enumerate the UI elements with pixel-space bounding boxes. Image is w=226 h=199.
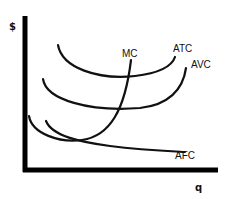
afc-curve: [46, 121, 185, 152]
afc-label: AFC: [175, 150, 195, 161]
mc-label: MC: [122, 48, 138, 59]
avc-curve: [43, 68, 186, 109]
mc-curve: [29, 60, 131, 141]
atc-curve: [58, 45, 175, 77]
cost-curves-diagram: $ q MC ATC AVC AFC: [0, 0, 226, 199]
x-axis-label: q: [195, 182, 202, 193]
avc-label: AVC: [191, 59, 211, 70]
y-axis-label: $: [9, 21, 16, 32]
atc-label: ATC: [173, 43, 192, 54]
